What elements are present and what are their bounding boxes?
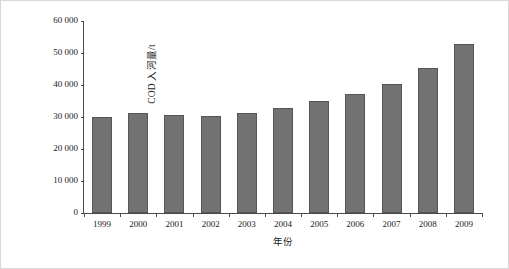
x-axis-tick-mark xyxy=(84,213,85,217)
x-axis-tick-mark xyxy=(446,213,447,217)
x-axis-title: 年份 xyxy=(84,234,482,248)
x-axis-tick-label: 2001 xyxy=(165,219,183,229)
x-axis-tick-label: 2007 xyxy=(383,219,401,229)
y-axis-tick-label: 40 000 xyxy=(53,79,78,89)
y-axis-tick-label: 60 000 xyxy=(53,15,78,25)
bar-slot xyxy=(410,21,446,213)
bar[interactable] xyxy=(164,115,184,213)
plot-area: COD 入河量/t 010 00020 00030 00040 00050 00… xyxy=(83,21,482,214)
bar[interactable] xyxy=(237,113,257,213)
bar-slot xyxy=(265,21,301,213)
x-axis-tick-mark xyxy=(410,213,411,217)
x-axis-tick-label: 2008 xyxy=(419,219,437,229)
bar-slot xyxy=(193,21,229,213)
bar[interactable] xyxy=(92,117,112,213)
bar[interactable] xyxy=(345,94,365,213)
bar-slot xyxy=(84,21,120,213)
x-axis-tick-mark xyxy=(337,213,338,217)
x-axis-tick-mark xyxy=(373,213,374,217)
x-axis-tick-label: 2006 xyxy=(346,219,364,229)
x-axis-tick-label: 2004 xyxy=(274,219,292,229)
bar[interactable] xyxy=(382,84,402,213)
x-axis-tick-mark xyxy=(229,213,230,217)
x-axis-tick-label: 2005 xyxy=(310,219,328,229)
bar[interactable] xyxy=(418,68,438,213)
y-axis-tick-label: 0 xyxy=(74,207,79,217)
bar-slot xyxy=(337,21,373,213)
x-axis-tick-mark xyxy=(156,213,157,217)
x-axis-tick-mark xyxy=(120,213,121,217)
bar[interactable] xyxy=(201,116,221,213)
bar-slot xyxy=(120,21,156,213)
bar-series xyxy=(84,21,482,213)
y-axis-tick-label: 30 000 xyxy=(53,111,78,121)
x-axis-tick-label: 2009 xyxy=(455,219,473,229)
bar[interactable] xyxy=(309,101,329,213)
x-axis-tick-mark xyxy=(301,213,302,217)
y-axis-tick-label: 10 000 xyxy=(53,175,78,185)
chart-figure: COD 入河量/t 010 00020 00030 00040 00050 00… xyxy=(0,0,509,269)
y-axis-tick-label: 20 000 xyxy=(53,143,78,153)
x-axis-tick-label: 2002 xyxy=(202,219,220,229)
bar-slot xyxy=(229,21,265,213)
x-axis-tick-mark xyxy=(193,213,194,217)
bar[interactable] xyxy=(273,108,293,213)
x-axis-tick-label: 1999 xyxy=(93,219,111,229)
bar[interactable] xyxy=(454,44,474,213)
y-axis-tick-label: 50 000 xyxy=(53,47,78,57)
bar[interactable] xyxy=(128,113,148,213)
bar-slot xyxy=(446,21,482,213)
bar-slot xyxy=(156,21,192,213)
x-axis-tick-mark xyxy=(482,213,483,217)
x-axis-tick-label: 2003 xyxy=(238,219,256,229)
x-axis-tick-label: 2000 xyxy=(129,219,147,229)
bar-slot xyxy=(373,21,409,213)
bar-slot xyxy=(301,21,337,213)
x-axis-tick-mark xyxy=(265,213,266,217)
